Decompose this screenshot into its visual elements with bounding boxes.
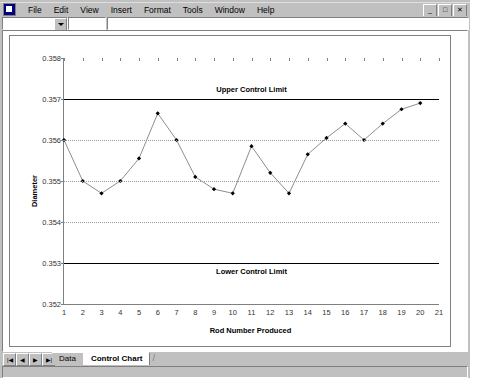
name-box[interactable] bbox=[2, 17, 68, 30]
tab-divider: / bbox=[150, 352, 155, 364]
x-axis-tick-label: 13 bbox=[285, 308, 293, 317]
x-axis-tick-mark bbox=[383, 58, 384, 61]
x-axis-tick-label: 11 bbox=[248, 308, 256, 317]
excel-app-icon[interactable] bbox=[3, 3, 16, 16]
x-axis-tick-mark bbox=[120, 58, 121, 61]
plot-area: 0.3580.3570.3560.3550.3540.3530.352Upper… bbox=[63, 58, 439, 305]
x-axis-tick-label: 16 bbox=[341, 308, 349, 317]
data-point-marker bbox=[418, 101, 422, 105]
control-limit-label: Lower Control Limit bbox=[216, 267, 287, 276]
control-limit-label: Upper Control Limit bbox=[216, 85, 286, 94]
x-axis-tick-mark bbox=[177, 58, 178, 61]
sheet-tab-data[interactable]: Data bbox=[52, 352, 83, 365]
gridline bbox=[64, 140, 439, 141]
menu-item-view[interactable]: View bbox=[74, 4, 104, 16]
x-axis-tick-mark bbox=[252, 58, 253, 61]
sheet-nav-buttons: |◀ ◀ ▶ ▶| bbox=[3, 353, 55, 366]
x-axis-tick-label: 17 bbox=[360, 308, 368, 317]
x-axis-tick-mark bbox=[233, 58, 234, 61]
x-axis-tick-label: 20 bbox=[416, 308, 424, 317]
gridline bbox=[64, 181, 439, 182]
x-axis-tick-mark bbox=[102, 58, 103, 61]
x-axis-tick-label: 10 bbox=[229, 308, 237, 317]
next-sheet-icon[interactable]: ▶ bbox=[29, 353, 42, 366]
menu-bar: File Edit View Insert Format Tools Windo… bbox=[0, 2, 470, 16]
x-axis-tick-label: 9 bbox=[212, 308, 216, 317]
x-axis-tick-mark bbox=[364, 58, 365, 61]
sheet-tab-control-chart[interactable]: Control Chart bbox=[83, 352, 151, 365]
y-axis-tick-label: 0.352 bbox=[42, 300, 61, 309]
y-axis-tick-label: 0.355 bbox=[42, 177, 61, 186]
series-line bbox=[64, 103, 420, 193]
sheet-tab-bar: |◀ ◀ ▶ ▶| Data Control Chart / bbox=[2, 352, 466, 366]
y-axis-tick-label: 0.356 bbox=[42, 136, 61, 145]
menu-item-window[interactable]: Window bbox=[209, 4, 251, 16]
worksheet-client-area: Diameter Rod Number Produced 0.3580.3570… bbox=[2, 30, 468, 352]
horizontal-scrollbar[interactable] bbox=[2, 366, 468, 378]
y-axis-title: Diameter bbox=[30, 175, 39, 207]
x-axis-tick-mark bbox=[308, 58, 309, 61]
x-axis-tick-mark bbox=[420, 58, 421, 61]
x-axis-tick-label: 4 bbox=[118, 308, 122, 317]
x-axis-tick-label: 3 bbox=[99, 308, 103, 317]
x-axis-tick-mark bbox=[139, 58, 140, 61]
x-axis-tick-mark bbox=[270, 58, 271, 61]
x-axis-tick-label: 7 bbox=[174, 308, 178, 317]
x-axis-tick-label: 6 bbox=[156, 308, 160, 317]
x-axis-tick-mark bbox=[195, 58, 196, 61]
control-limit-line bbox=[64, 263, 439, 264]
x-axis-tick-label: 12 bbox=[266, 308, 274, 317]
x-axis-tick-label: 2 bbox=[81, 308, 85, 317]
formula-bar-row bbox=[0, 16, 470, 29]
x-axis-tick-label: 14 bbox=[304, 308, 312, 317]
x-axis-tick-mark bbox=[327, 58, 328, 61]
x-axis-tick-label: 5 bbox=[137, 308, 141, 317]
menu-item-help[interactable]: Help bbox=[251, 4, 280, 16]
y-axis-tick-label: 0.358 bbox=[42, 54, 61, 63]
x-axis-tick-mark bbox=[83, 58, 84, 61]
menu-item-file[interactable]: File bbox=[22, 4, 48, 16]
x-axis-tick-mark bbox=[289, 58, 290, 61]
y-axis-tick-label: 0.357 bbox=[42, 95, 61, 104]
x-axis-tick-label: 1 bbox=[62, 308, 66, 317]
prev-sheet-icon[interactable]: ◀ bbox=[16, 353, 29, 366]
x-axis-tick-label: 8 bbox=[193, 308, 197, 317]
x-axis-title: Rod Number Produced bbox=[63, 326, 438, 335]
x-axis-tick-label: 21 bbox=[435, 308, 443, 317]
menu-item-edit[interactable]: Edit bbox=[48, 4, 75, 16]
y-axis-tick-label: 0.353 bbox=[42, 259, 61, 268]
x-axis-tick-label: 19 bbox=[397, 308, 405, 317]
sheet-tabs: Data Control Chart / bbox=[52, 352, 155, 365]
menu-item-tools[interactable]: Tools bbox=[177, 4, 209, 16]
excel-window: File Edit View Insert Format Tools Windo… bbox=[0, 0, 470, 378]
y-axis-tick-mark bbox=[61, 304, 64, 305]
control-chart[interactable]: Diameter Rod Number Produced 0.3580.3570… bbox=[9, 35, 451, 347]
y-axis-tick-label: 0.354 bbox=[42, 218, 61, 227]
first-sheet-icon[interactable]: |◀ bbox=[3, 353, 16, 366]
x-axis-tick-label: 15 bbox=[322, 308, 330, 317]
formula-bar-buttons[interactable] bbox=[68, 17, 106, 30]
x-axis-tick-label: 18 bbox=[379, 308, 387, 317]
gridline bbox=[64, 222, 439, 223]
page-right-margin bbox=[470, 0, 482, 378]
menu-item-insert[interactable]: Insert bbox=[105, 4, 138, 16]
data-point-marker bbox=[231, 191, 235, 195]
x-axis-tick-mark bbox=[64, 58, 65, 61]
x-axis-tick-mark bbox=[345, 58, 346, 61]
x-axis-tick-mark bbox=[158, 58, 159, 61]
formula-input[interactable] bbox=[107, 17, 469, 30]
x-axis-tick-mark bbox=[214, 58, 215, 61]
menu-item-format[interactable]: Format bbox=[138, 4, 177, 16]
x-axis-tick-mark bbox=[402, 58, 403, 61]
control-limit-line bbox=[64, 99, 439, 100]
x-axis-tick-mark bbox=[439, 58, 440, 61]
